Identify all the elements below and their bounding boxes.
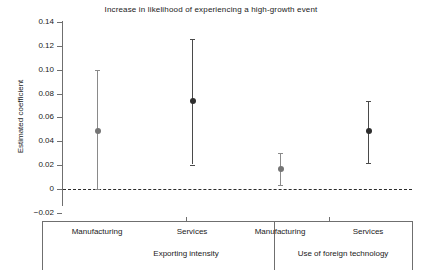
y-tick-label: 0.02 [8,160,54,169]
y-tick-mark [57,46,62,47]
chart-title: Increase in likelihood of experiencing a… [0,5,422,14]
group-label: Exporting intensity [153,249,218,258]
y-tick-label: −0.02 [8,208,54,217]
error-bar-cap-lower [278,185,283,186]
group-boundary-tick [186,217,187,221]
error-bar-cap-lower [190,165,195,166]
y-tick-label: 0.06 [8,112,54,121]
error-bar-cap-lower [366,163,371,164]
zero-reference-line [63,189,412,190]
error-bar-cap-upper [95,70,100,71]
y-tick-label: 0.12 [8,41,54,50]
y-tick-label: 0.10 [8,65,54,74]
y-tick-mark [57,189,62,190]
group-label: Use of foreign technology [298,249,389,258]
y-tick-label: 0.14 [8,17,54,26]
category-label: Services [177,227,208,236]
y-tick-mark [57,141,62,142]
y-tick-mark [57,70,62,71]
y-tick-label: 0.08 [8,89,54,98]
y-tick-mark [57,165,62,166]
y-tick-label: 0 [8,184,54,193]
panel-divider [412,221,413,270]
data-point-marker[interactable] [366,128,372,134]
category-label: Manufacturing [72,227,123,236]
y-tick-mark [57,22,62,23]
error-bar-cap-upper [278,153,283,154]
chart-figure: Increase in likelihood of experiencing a… [0,0,422,274]
y-axis-line [62,21,63,206]
error-bar-cap-upper [190,39,195,40]
group-boundary-tick [329,217,330,221]
y-tick-mark [57,117,62,118]
data-point-marker[interactable] [278,166,284,172]
category-label: Services [353,227,384,236]
data-point-marker[interactable] [190,98,196,104]
panel-divider [42,221,43,270]
category-label: Manufacturing [255,227,306,236]
error-bar-cap-upper [366,101,371,102]
error-bar-cap-lower [95,189,100,190]
y-tick-mark [57,213,62,214]
data-point-marker[interactable] [95,128,101,134]
y-tick-mark [57,94,62,95]
category-panel: ManufacturingServicesManufacturingServic… [42,221,412,270]
y-tick-label: 0.04 [8,136,54,145]
